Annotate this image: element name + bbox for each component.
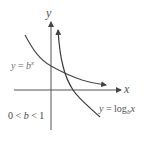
log-label-eq: = log bbox=[103, 103, 126, 114]
log-label-arg: x bbox=[130, 103, 134, 114]
exponential-curve bbox=[25, 35, 106, 85]
condition-left: 0 < bbox=[8, 110, 24, 121]
log-exp-graph: y x y = bx y = logbx 0 < b < 1 bbox=[0, 0, 147, 141]
exp-label-eq: = bbox=[15, 60, 26, 71]
base-condition-label: 0 < b < 1 bbox=[8, 111, 44, 121]
condition-right: < 1 bbox=[29, 110, 45, 121]
y-axis-label: y bbox=[46, 7, 51, 19]
exponential-label: y = bx bbox=[11, 60, 34, 71]
logarithm-label: y = logbx bbox=[99, 104, 135, 116]
x-axis-label: x bbox=[124, 83, 129, 95]
exp-label-exponent: x bbox=[31, 59, 34, 67]
